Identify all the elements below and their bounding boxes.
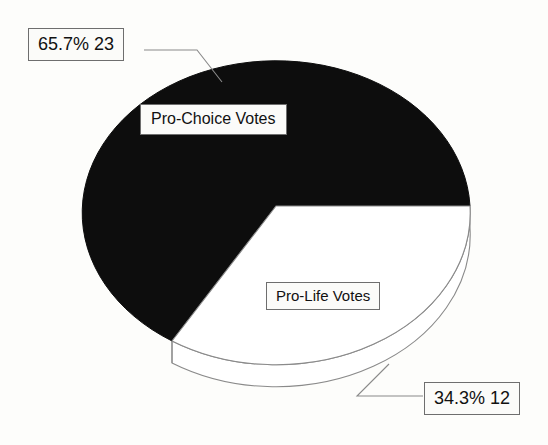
pie-chart-graphic	[0, 0, 548, 445]
callout-pro-choice-name: Pro-Choice Votes	[140, 104, 287, 135]
callout-pro-choice-percent: 65.7% 23	[28, 28, 124, 61]
pie-chart-page: 65.7% 23 Pro-Choice Votes Pro-Life Votes…	[0, 0, 548, 445]
callout-pro-life-percent: 34.3% 12	[424, 382, 520, 415]
callout-pro-life-name: Pro-Life Votes	[266, 282, 380, 310]
